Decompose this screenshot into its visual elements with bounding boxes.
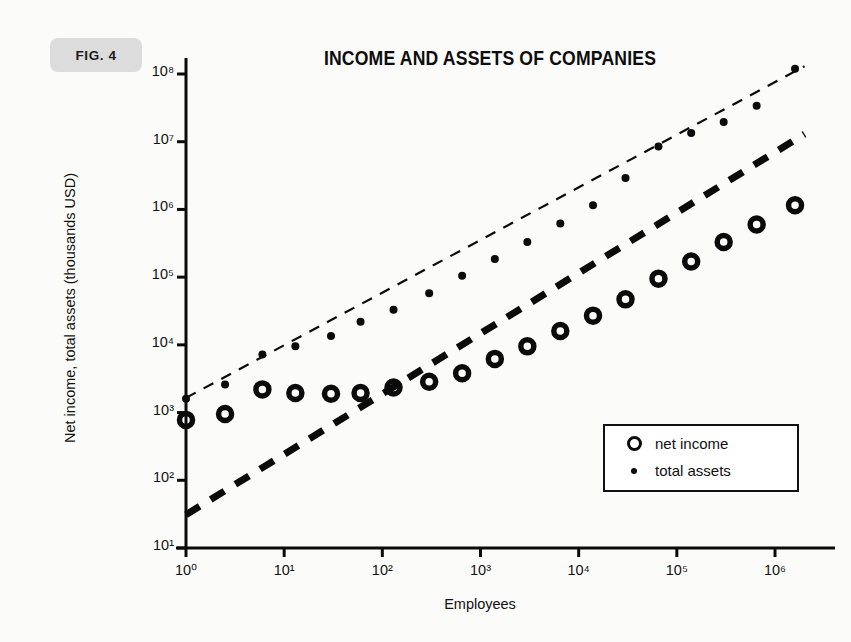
data-point-total-assets	[753, 102, 761, 110]
legend-label-total-assets: total assets	[655, 462, 731, 479]
data-point-net-income	[423, 375, 436, 388]
data-point-total-assets	[720, 118, 728, 126]
x-tick-label: 10⁴	[557, 562, 601, 578]
figure-root: FIG. 4 INCOME AND ASSETS OF COMPANIES Em…	[0, 0, 851, 642]
data-point-net-income	[219, 408, 232, 421]
y-tick-label: 10⁸	[128, 63, 174, 79]
data-point-total-assets	[357, 318, 365, 326]
x-axis-label: Employees	[330, 596, 630, 612]
legend-entry-net-income: net income	[623, 435, 728, 452]
data-point-total-assets	[458, 272, 466, 280]
data-point-total-assets	[390, 306, 398, 314]
open-ring-icon	[623, 436, 645, 451]
data-point-total-assets	[589, 201, 597, 209]
y-tick-label: 10⁶	[128, 198, 174, 214]
x-tick-label: 10⁵	[655, 562, 699, 578]
data-point-total-assets	[654, 142, 662, 150]
y-tick-label: 10³	[128, 402, 174, 418]
data-point-net-income	[289, 386, 302, 399]
data-point-net-income	[354, 386, 367, 399]
data-point-total-assets	[556, 219, 564, 227]
data-point-total-assets	[687, 129, 695, 137]
data-point-net-income	[587, 309, 600, 322]
legend: net income total assets	[603, 424, 799, 492]
x-tick-label: 10³	[459, 562, 503, 578]
data-point-total-assets	[523, 238, 531, 246]
data-point-net-income	[685, 255, 698, 268]
data-point-net-income	[456, 367, 469, 380]
x-tick-label: 10¹	[262, 562, 306, 578]
data-point-total-assets	[622, 174, 630, 182]
y-tick-label: 10⁵	[128, 266, 174, 282]
data-point-total-assets	[182, 395, 190, 403]
data-point-net-income	[717, 236, 730, 249]
y-axis-label: Net income, total assets (thousands USD)	[62, 143, 78, 473]
data-point-total-assets	[291, 342, 299, 350]
data-point-net-income	[750, 218, 763, 231]
data-point-net-income	[488, 352, 501, 365]
trendline-total-assets-trend	[186, 66, 805, 398]
legend-entry-total-assets: total assets	[623, 462, 731, 479]
x-tick-label: 10⁶	[753, 562, 797, 578]
data-point-total-assets	[258, 351, 266, 359]
data-point-net-income	[652, 272, 665, 285]
y-tick-label: 10¹	[128, 537, 174, 553]
data-point-total-assets	[425, 289, 433, 297]
y-tick-label: 10⁷	[128, 131, 174, 147]
data-point-total-assets	[327, 332, 335, 340]
data-point-net-income	[554, 325, 567, 338]
legend-label-net-income: net income	[655, 435, 728, 452]
data-point-net-income	[789, 199, 802, 212]
y-tick-label: 10⁴	[128, 334, 174, 350]
data-point-net-income	[325, 387, 338, 400]
data-point-net-income	[256, 383, 269, 396]
data-point-net-income	[521, 340, 534, 353]
x-tick-label: 10⁰	[164, 562, 208, 578]
y-tick-label: 10²	[128, 469, 174, 485]
x-tick-label: 10²	[360, 562, 404, 578]
data-point-total-assets	[491, 255, 499, 263]
filled-dot-icon	[623, 468, 645, 474]
data-point-net-income	[619, 293, 632, 306]
data-point-total-assets	[221, 380, 229, 388]
data-point-total-assets	[791, 65, 799, 73]
